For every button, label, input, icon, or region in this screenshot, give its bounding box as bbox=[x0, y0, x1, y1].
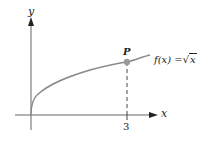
y-axis-arrow-icon bbox=[28, 17, 34, 26]
sqrt-curve bbox=[31, 55, 150, 115]
function-name: f(x) = bbox=[154, 54, 183, 65]
x-axis-label: x bbox=[161, 108, 167, 119]
point-p bbox=[124, 59, 130, 65]
x-axis-arrow-icon bbox=[149, 112, 158, 118]
function-arg: x bbox=[189, 53, 197, 65]
point-p-label: P bbox=[123, 47, 131, 57]
sqrt-function-graph bbox=[0, 0, 204, 145]
function-label: f(x) =√x bbox=[154, 55, 197, 65]
y-axis-label: y bbox=[28, 6, 34, 17]
tick-label-3: 3 bbox=[123, 122, 129, 132]
